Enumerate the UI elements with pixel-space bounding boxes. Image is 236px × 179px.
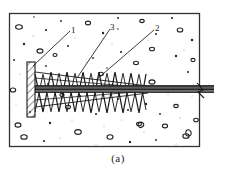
concrete-block — [10, 14, 200, 147]
callout-label-2: 2 — [155, 24, 160, 33]
callout-label-3: 3 — [110, 23, 115, 32]
figure-caption: (a) — [0, 152, 236, 164]
callout-label-1: 1 — [71, 26, 76, 35]
anchor-plate — [27, 62, 35, 117]
